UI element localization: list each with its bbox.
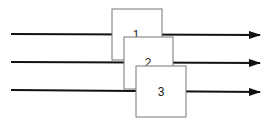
box-3: 3	[136, 66, 186, 117]
diagram-canvas: 1 2 3	[0, 0, 274, 121]
box-3-label: 3	[158, 85, 165, 99]
